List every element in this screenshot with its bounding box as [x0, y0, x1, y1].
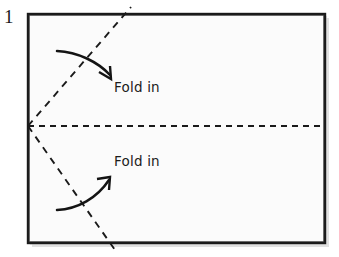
paper-diagram	[0, 0, 339, 257]
origami-step-figure: 1 Fold in	[0, 0, 339, 257]
fold-in-label-top: Fold in	[114, 79, 160, 95]
fold-in-label-bottom: Fold in	[114, 153, 160, 169]
